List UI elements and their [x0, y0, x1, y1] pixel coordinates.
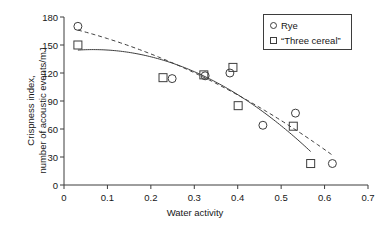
legend-box: Rye “Three cereal”	[263, 14, 352, 50]
data-point-square	[307, 160, 315, 168]
data-point-circle	[74, 22, 82, 30]
data-point-circle	[291, 109, 299, 117]
legend-label-rye: Rye	[281, 20, 298, 31]
legend-entry-rye: Rye	[270, 18, 298, 32]
circle-marker-icon	[270, 22, 277, 29]
x-axis-ticks	[64, 185, 368, 189]
data-point-square	[234, 102, 242, 110]
legend-entry-three-cereal: “Three cereal”	[270, 33, 341, 47]
data-point-circle	[226, 69, 234, 77]
data-point-square	[74, 41, 82, 49]
data-point-circle	[328, 160, 336, 168]
square-marker-icon	[270, 37, 277, 44]
y-axis-ticks	[60, 17, 64, 185]
data-point-circle	[259, 121, 267, 129]
legend-label-three-cereal: “Three cereal”	[281, 35, 341, 46]
fit-curve-solid	[78, 50, 311, 152]
crispness-index-scatter-chart: Crispness index, number of acoustic even…	[0, 0, 390, 231]
data-point-square	[159, 74, 167, 82]
data-point-circle	[168, 75, 176, 83]
